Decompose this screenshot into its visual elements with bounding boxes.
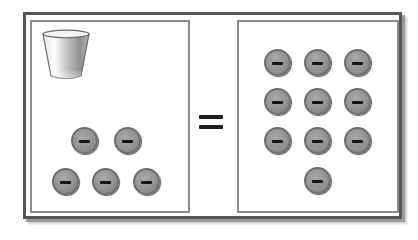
negative-charge-icon	[344, 127, 371, 154]
negative-charge-icon	[264, 88, 291, 115]
negative-charge-icon	[304, 49, 331, 76]
negative-charge-icon	[304, 167, 331, 194]
equals-bar-bottom	[199, 125, 223, 129]
minus-sign-icon	[272, 101, 283, 104]
equals-sign: =	[199, 114, 223, 131]
minus-sign-icon	[312, 62, 323, 65]
negative-charge-icon	[133, 168, 160, 195]
negative-charge-icon	[52, 168, 79, 195]
negative-charge-icon	[92, 168, 119, 195]
negative-charge-icon	[264, 127, 291, 154]
minus-sign-icon	[312, 140, 323, 143]
negative-charge-icon	[71, 127, 98, 154]
minus-sign-icon	[352, 140, 363, 143]
minus-sign-icon	[60, 181, 71, 184]
minus-sign-icon	[272, 140, 283, 143]
minus-sign-icon	[141, 181, 152, 184]
equals-bar-top	[199, 115, 223, 119]
negative-charge-icon	[304, 88, 331, 115]
minus-sign-icon	[352, 62, 363, 65]
minus-sign-icon	[79, 140, 90, 143]
minus-sign-icon	[312, 101, 323, 104]
minus-sign-icon	[352, 101, 363, 104]
minus-sign-icon	[100, 181, 111, 184]
cup-icon	[40, 28, 92, 82]
negative-charge-icon	[114, 127, 141, 154]
negative-charge-icon	[264, 49, 291, 76]
minus-sign-icon	[122, 140, 133, 143]
minus-sign-icon	[272, 62, 283, 65]
minus-sign-icon	[312, 180, 323, 183]
negative-charge-icon	[304, 127, 331, 154]
negative-charge-icon	[344, 49, 371, 76]
negative-charge-icon	[344, 88, 371, 115]
